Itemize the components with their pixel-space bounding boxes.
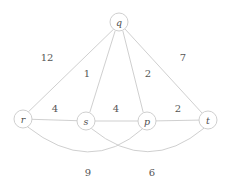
node-r[interactable]: r [14, 110, 32, 128]
edge-weight-s-t: 6 [149, 167, 155, 178]
edge-weight-q-t: 7 [180, 52, 186, 63]
edge-weight-s-p: 4 [113, 103, 119, 114]
edge-s-t [92, 128, 205, 152]
node-p[interactable]: p [138, 112, 156, 130]
edge-weight-q-p: 2 [145, 68, 151, 79]
edge-r-s [32, 119, 77, 120]
node-label-t: t [206, 115, 210, 126]
edge-weight-q-r: 12 [41, 52, 54, 63]
edges-group [28, 29, 205, 152]
node-label-p: p [144, 116, 150, 127]
node-s[interactable]: s [77, 112, 95, 130]
edge-q-p [123, 31, 143, 113]
edge-weight-q-s: 1 [84, 68, 90, 79]
edge-q-r [28, 29, 113, 112]
weighted-graph-figure: 12 1 2 7 4 4 2 9 6 q r s [0, 0, 232, 189]
edge-q-t [125, 29, 202, 113]
edge-weight-labels-group: 12 1 2 7 4 4 2 9 6 [41, 52, 187, 178]
graph-canvas: 12 1 2 7 4 4 2 9 6 q r s [0, 0, 232, 189]
edge-weight-r-s: 4 [52, 103, 58, 114]
edge-weight-r-p: 9 [85, 167, 91, 178]
edge-q-s [90, 31, 115, 113]
node-label-s: s [84, 116, 89, 127]
edge-weight-p-t: 2 [175, 103, 181, 114]
node-label-q: q [116, 17, 122, 28]
node-t[interactable]: t [199, 111, 217, 129]
node-q[interactable]: q [110, 13, 128, 31]
edge-p-t [156, 120, 199, 121]
